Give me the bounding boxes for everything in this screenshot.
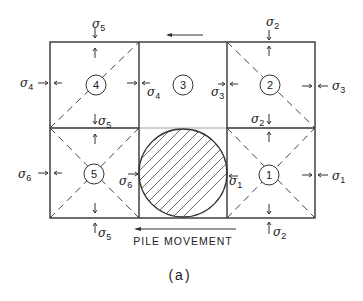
sigma2-top: σ2 [266,15,279,31]
svg-text:4: 4 [93,79,99,91]
stress-arrows [38,28,328,234]
sigma6-left: σ6 [18,167,31,183]
svg-text:5: 5 [91,168,97,180]
cell-1-label: 1 [259,165,279,185]
pile-movement-label: PILE MOVEMENT [133,235,232,247]
cell-2-label: 2 [260,75,280,95]
svg-text:3: 3 [180,79,186,91]
pile-movement-arrow [134,227,236,231]
sigma3-left: σ3 [211,85,224,101]
sigma3-right: σ3 [332,79,345,95]
sigma4-left: σ4 [20,76,33,92]
sigma4-right: σ4 [147,85,160,101]
cell-3-label: 3 [173,75,193,95]
cell-4-label: 4 [86,75,106,95]
cell-5-label: 5 [84,164,104,184]
grid [50,42,315,218]
sigma2-mid: σ2 [251,112,264,128]
sigma1-pile: σ1 [229,174,242,190]
top-movement-arrow [166,33,203,37]
sigma1-right: σ1 [332,169,345,185]
failure-planes [50,42,315,218]
sigma5-top: σ5 [92,17,105,33]
svg-text:1: 1 [266,169,272,181]
sigma5-bottom: σ5 [98,226,111,242]
pile-stress-diagram: 4 3 2 5 1 [0,0,363,301]
sigma2-bottom: σ2 [273,225,286,241]
figure-label: (a) [168,267,191,283]
sigma6-pile: σ6 [119,174,132,190]
svg-text:2: 2 [267,79,273,91]
sigma5-mid: σ5 [98,114,111,130]
